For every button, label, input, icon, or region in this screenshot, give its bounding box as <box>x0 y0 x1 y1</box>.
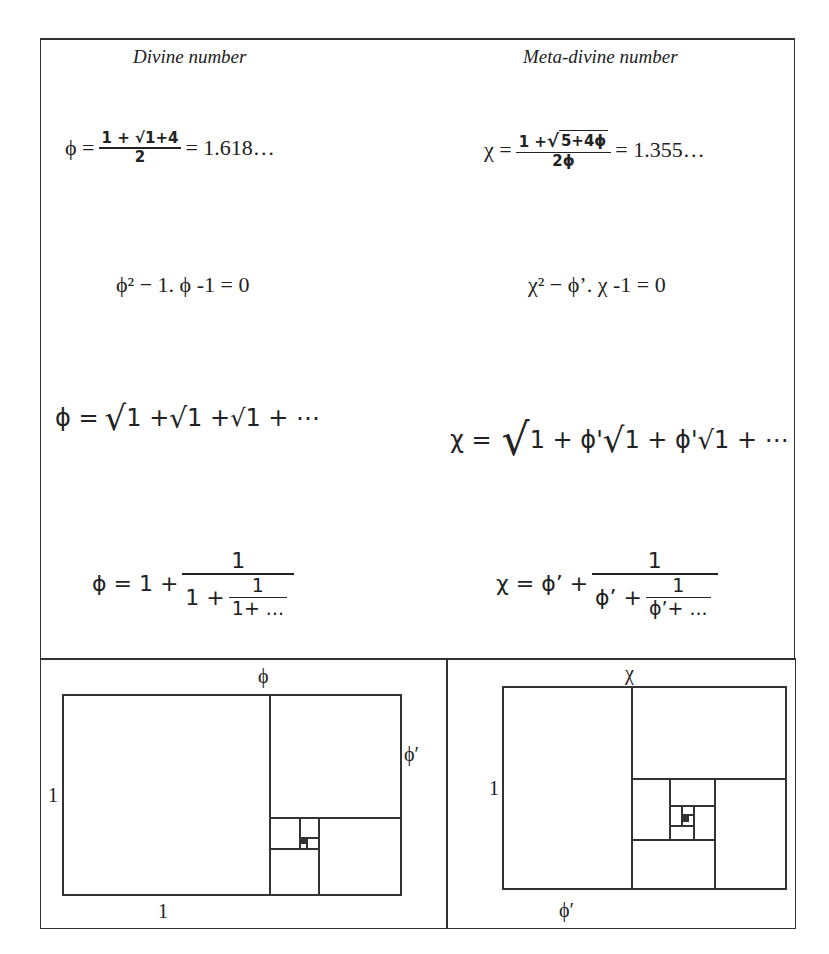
meta-left-label: 1 <box>489 777 499 800</box>
golden-top-label: ϕ <box>258 665 269 688</box>
meta-golden-rectangle-diagram <box>503 687 786 889</box>
meta-top-label: χ <box>625 662 634 685</box>
golden-rectangle-diagram <box>63 695 401 895</box>
golden-left-label: 1 <box>48 784 58 807</box>
golden-bottom-label: 1 <box>158 900 168 923</box>
meta-bottom-label: ϕ′ <box>559 899 574 922</box>
rectangle-subdivision-diagrams <box>0 0 829 954</box>
golden-right-label: ϕ′ <box>404 743 419 766</box>
